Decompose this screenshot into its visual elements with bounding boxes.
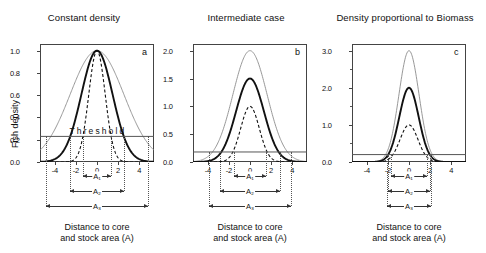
x-tick-mark: [409, 162, 410, 165]
x-tick-label: 4: [137, 166, 141, 175]
panel-a-curves: [40, 44, 154, 162]
span-guide-line: [391, 155, 392, 176]
panel-letter-c: c: [454, 47, 459, 57]
panel-letter-b: b: [295, 47, 300, 57]
span-arrowhead-left: [46, 204, 50, 208]
curve-medium-gaussian: [352, 88, 466, 162]
curve-narrow-gaussian: [193, 106, 307, 162]
curve-wide-gaussian: [193, 51, 307, 162]
span-guide-line: [209, 152, 210, 206]
span-guide-line: [291, 152, 292, 206]
y-tick-label: 0.8: [10, 68, 35, 77]
x-tick-mark: [76, 162, 77, 165]
y-tick-label: 3.0: [322, 46, 347, 55]
x-tick-label: 2: [269, 166, 273, 175]
span-guide-line: [266, 152, 267, 176]
span-guide-line: [124, 136, 125, 191]
x-tick-mark: [229, 162, 230, 165]
x-tick-mark: [118, 162, 119, 165]
span-label-2: A₂: [92, 187, 102, 196]
span-arrowhead-right: [287, 204, 291, 208]
span-arrowhead-left: [388, 189, 392, 193]
span-arrowhead-right: [276, 189, 280, 193]
curve-medium-gaussian: [193, 79, 307, 162]
span-arrowhead-right: [427, 204, 431, 208]
y-tick-label: 0.0: [322, 158, 347, 167]
span-arrowhead-right: [144, 204, 148, 208]
span-arrowhead-left: [391, 174, 395, 178]
span-guide-line: [70, 136, 71, 191]
panel-letter-a: a: [142, 47, 147, 57]
panel-b-x-caption: Distance to core and stock area (A): [193, 222, 307, 243]
span-label-2: A₂: [245, 187, 255, 196]
panel-b: Intermediate case b0.00.51.01.52.0-4-202…: [168, 0, 324, 253]
span-label-1: A₁: [92, 172, 102, 181]
x-caption-line-1: Distance to core: [64, 222, 129, 232]
y-tick-mark: [190, 162, 193, 163]
span-arrowhead-left: [83, 174, 87, 178]
span-label-1: A₁: [404, 172, 414, 181]
span-guide-line: [427, 155, 428, 176]
y-tick-label: 0.0: [163, 158, 188, 167]
y-tick-label: 2.0: [163, 46, 188, 55]
span-label-1: A₁: [245, 172, 255, 181]
span-guide-line: [148, 136, 149, 206]
panel-a: Constant density Fish density a0.00.20.4…: [0, 0, 168, 253]
x-tick-label: -2: [73, 166, 79, 175]
panel-c-curves: [352, 44, 466, 162]
span-guide-line: [83, 136, 84, 176]
x-tick-mark: [271, 162, 272, 165]
x-tick-mark: [451, 162, 452, 165]
span-arrowhead-right: [107, 174, 111, 178]
span-label-2: A₂: [404, 187, 414, 196]
span-label-3: A₃: [245, 202, 255, 211]
panel-b-plot-area: b0.00.51.01.52.0-4-2024: [193, 44, 307, 162]
span-guide-line: [280, 152, 281, 191]
x-caption-line-1: Distance to core: [217, 222, 282, 232]
span-arrowhead-left: [209, 204, 213, 208]
panel-c: Density proportional to Biomass c0.01.02…: [324, 0, 486, 253]
y-tick-label: 0.5: [163, 130, 188, 139]
span-arrowhead-left: [220, 189, 224, 193]
x-caption-line-2: and stock area (A): [213, 233, 287, 243]
span-arrowhead-right: [426, 189, 430, 193]
span-label-3: A₃: [92, 202, 102, 211]
y-tick-label: 0.0: [10, 158, 35, 167]
x-caption-line-2: and stock area (A): [372, 233, 446, 243]
span-arrowhead-left: [387, 204, 391, 208]
span-label-3: A₃: [404, 202, 414, 211]
x-caption-line-1: Distance to core: [376, 222, 441, 232]
curve-narrow-gaussian: [352, 125, 466, 162]
curve-wide-gaussian: [352, 51, 466, 162]
y-tick-label: 1.0: [10, 46, 35, 55]
x-tick-label: -4: [205, 166, 211, 175]
x-caption-line-2: and stock area (A): [60, 233, 134, 243]
x-tick-label: -2: [226, 166, 232, 175]
span-arrowhead-left: [70, 189, 74, 193]
y-tick-label: 0.2: [10, 135, 35, 144]
span-arrowhead-right: [262, 174, 266, 178]
span-guide-line: [220, 152, 221, 191]
y-tick-label: 1.0: [322, 120, 347, 129]
x-tick-label: -4: [52, 166, 58, 175]
span-arrowhead-right: [423, 174, 427, 178]
span-arrowhead-left: [234, 174, 238, 178]
x-tick-mark: [55, 162, 56, 165]
curve-narrow-gaussian: [40, 51, 154, 162]
panel-a-x-caption: Distance to core and stock area (A): [40, 222, 154, 243]
span-guide-line: [431, 155, 432, 206]
x-tick-mark: [139, 162, 140, 165]
y-tick-mark: [37, 162, 40, 163]
span-guide-line: [387, 155, 388, 206]
panel-c-plot-area: c0.01.02.03.0-4-2024: [352, 44, 466, 162]
x-tick-label: -4: [364, 166, 370, 175]
y-tick-label: 1.0: [163, 102, 188, 111]
figure-panel-group: Constant density Fish density a0.00.20.4…: [0, 0, 486, 253]
x-tick-mark: [97, 162, 98, 165]
x-tick-mark: [250, 162, 251, 165]
y-tick-label: 0.4: [10, 113, 35, 122]
x-tick-mark: [292, 162, 293, 165]
y-tick-label: 2.0: [322, 83, 347, 92]
span-arrowhead-right: [120, 189, 124, 193]
span-guide-line: [234, 152, 235, 176]
